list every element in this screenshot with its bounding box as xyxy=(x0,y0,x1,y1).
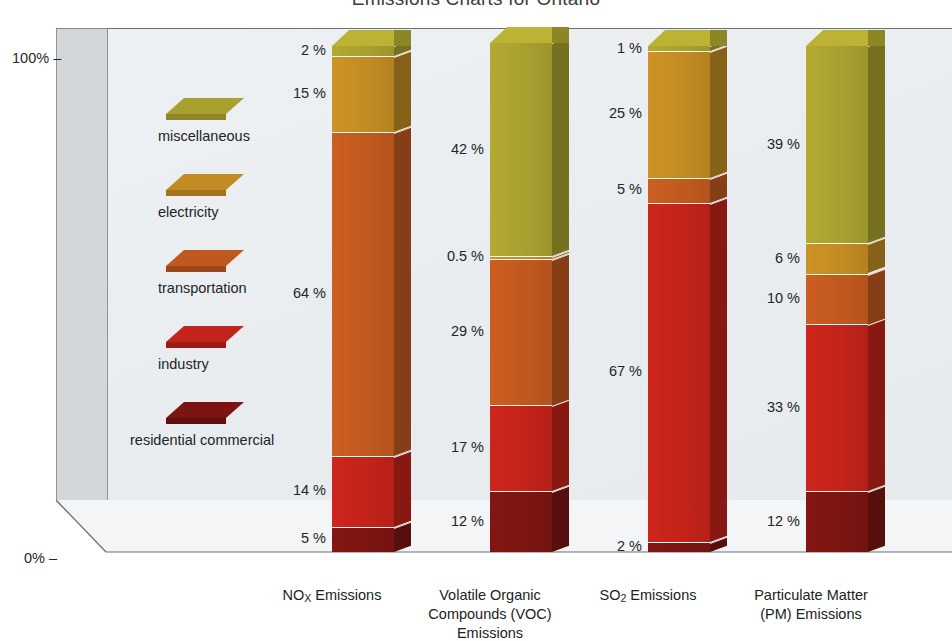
bar-segment-side-face xyxy=(394,127,411,456)
plot-left-side-wall xyxy=(56,28,108,552)
legend: miscellaneous electricity transportation… xyxy=(158,96,358,476)
bar-value-label-pm-electricity: 6 % xyxy=(775,250,800,266)
bar-top-right-face xyxy=(552,27,569,43)
bar-column-nox[interactable]: 2 %15 %64 %14 %5 % xyxy=(332,46,394,552)
bar-segment-side-face xyxy=(552,486,569,552)
bar-segment-so2-transportation[interactable] xyxy=(648,178,710,203)
x-axis-caption-nox-tail: Emissions xyxy=(311,587,381,603)
bar-segment-side-face xyxy=(394,51,411,132)
bar-value-label-nox-residential_commercial: 5 % xyxy=(301,530,326,546)
chart-title: Emissions Charts for Ontario xyxy=(0,0,952,10)
emissions-chart-figure: Emissions Charts for Ontario 100% – 0% –… xyxy=(0,0,952,641)
x-axis-caption-pm-line1: Particulate Matter xyxy=(716,586,906,605)
x-axis-caption-pm: Particulate Matter (PM) Emissions xyxy=(716,586,906,624)
bar-segment-side-face xyxy=(710,46,727,178)
bar-value-label-so2-electricity: 25 % xyxy=(609,105,642,121)
legend-swatch-residential-commercial xyxy=(166,400,244,426)
bar-segment-pm-electricity[interactable] xyxy=(806,243,868,273)
legend-swatch-industry xyxy=(166,324,244,350)
bar-segment-side-face xyxy=(552,253,569,405)
bar-segment-pm-transportation[interactable] xyxy=(806,274,868,325)
bar-segment-so2-industry[interactable] xyxy=(648,203,710,542)
y-axis-label-100: 100% – xyxy=(12,50,61,66)
bar-segment-side-face xyxy=(868,319,885,491)
bar-value-label-nox-industry: 14 % xyxy=(293,482,326,498)
legend-item-transportation: transportation xyxy=(158,248,358,324)
x-axis-caption-voc-line2: Compounds (VOC) xyxy=(400,605,580,624)
bar-segment-side-face xyxy=(394,451,411,527)
y-axis-label-100-text: 100% xyxy=(12,50,49,66)
x-axis-caption-pm-line2: (PM) Emissions xyxy=(716,605,906,624)
bar-segment-side-face xyxy=(868,486,885,552)
bar-segment-pm-industry[interactable] xyxy=(806,324,868,491)
bar-value-label-voc-residential_commercial: 12 % xyxy=(451,513,484,529)
y-axis-tick-top: – xyxy=(53,50,61,66)
bar-segment-side-face xyxy=(552,400,569,491)
bar-value-label-so2-miscellaneous: 1 % xyxy=(617,40,642,56)
bar-segment-voc-miscellaneous[interactable] xyxy=(490,43,552,256)
legend-label-miscellaneous: miscellaneous xyxy=(158,128,358,144)
bar-segment-so2-residential_commercial[interactable] xyxy=(648,542,710,552)
bar-segment-nox-electricity[interactable] xyxy=(332,56,394,132)
bar-top-right-face xyxy=(710,30,727,46)
bar-top-right-face xyxy=(868,30,885,46)
bar-value-label-voc-miscellaneous: 42 % xyxy=(451,141,484,157)
bar-value-label-nox-electricity: 15 % xyxy=(293,85,326,101)
legend-item-industry: industry xyxy=(158,324,358,400)
bar-segment-pm-residential_commercial[interactable] xyxy=(806,491,868,552)
bar-value-label-so2-residential_commercial: 2 % xyxy=(617,538,642,554)
x-axis-caption-nox-main: NO xyxy=(283,587,305,603)
legend-label-industry: industry xyxy=(158,356,358,372)
legend-item-residential-commercial: residential commercial xyxy=(158,400,358,476)
legend-label-electricity: electricity xyxy=(158,204,358,220)
x-axis-caption-voc: Volatile Organic Compounds (VOC) Emissio… xyxy=(400,586,580,641)
legend-swatch-transportation xyxy=(166,248,244,274)
bar-column-pm[interactable]: 39 %6 %10 %33 %12 % xyxy=(806,46,868,552)
bar-value-label-voc-electricity: 0.5 % xyxy=(447,248,484,264)
bar-segment-side-face xyxy=(552,37,569,256)
bar-top-right-face xyxy=(394,30,411,46)
x-axis-caption-nox: NOX Emissions xyxy=(242,586,422,608)
legend-swatch-miscellaneous xyxy=(166,96,244,122)
x-axis-caption-voc-line1: Volatile Organic xyxy=(400,586,580,605)
bar-value-label-voc-transportation: 29 % xyxy=(451,323,484,339)
bar-segment-side-face xyxy=(868,40,885,244)
bar-value-label-voc-industry: 17 % xyxy=(451,439,484,455)
bar-segment-so2-electricity[interactable] xyxy=(648,51,710,178)
y-axis-tick-bottom: – xyxy=(49,550,57,566)
bar-segment-nox-transportation[interactable] xyxy=(332,132,394,456)
bar-value-label-pm-residential_commercial: 12 % xyxy=(767,513,800,529)
bar-value-label-so2-industry: 67 % xyxy=(609,363,642,379)
bar-segment-nox-miscellaneous[interactable] xyxy=(332,46,394,56)
legend-item-miscellaneous: miscellaneous xyxy=(158,96,358,172)
legend-label-residential-commercial: residential commercial xyxy=(130,432,330,448)
bar-value-label-pm-industry: 33 % xyxy=(767,399,800,415)
legend-label-transportation: transportation xyxy=(158,280,358,296)
bar-segment-side-face xyxy=(868,269,885,325)
bar-segment-voc-residential_commercial[interactable] xyxy=(490,491,552,552)
y-axis-label-0-text: 0% xyxy=(24,550,45,566)
legend-swatch-electricity xyxy=(166,172,244,198)
x-axis-caption-voc-line3: Emissions xyxy=(400,624,580,641)
bar-value-label-pm-transportation: 10 % xyxy=(767,290,800,306)
x-axis-caption-so2-tail: Emissions xyxy=(626,587,696,603)
y-axis-label-0: 0% – xyxy=(24,550,57,566)
bar-value-label-pm-miscellaneous: 39 % xyxy=(767,136,800,152)
bar-segment-nox-residential_commercial[interactable] xyxy=(332,527,394,552)
bar-segment-nox-industry[interactable] xyxy=(332,456,394,527)
x-axis-caption-so2: SO2 Emissions xyxy=(558,586,738,608)
bar-column-voc[interactable]: 42 %0.5 %29 %17 %12 % xyxy=(490,43,552,552)
x-axis-caption-so2-main: SO xyxy=(600,587,621,603)
bar-segment-voc-industry[interactable] xyxy=(490,405,552,491)
bar-value-label-nox-transportation: 64 % xyxy=(293,285,326,301)
legend-item-electricity: electricity xyxy=(158,172,358,248)
bar-segment-voc-transportation[interactable] xyxy=(490,259,552,406)
bar-segment-pm-miscellaneous[interactable] xyxy=(806,46,868,243)
bar-column-so2[interactable]: 1 %25 %5 %67 %2 % xyxy=(648,46,710,552)
bar-segment-side-face xyxy=(710,198,727,542)
bar-value-label-nox-miscellaneous: 2 % xyxy=(301,42,326,58)
bar-value-label-so2-transportation: 5 % xyxy=(617,181,642,197)
